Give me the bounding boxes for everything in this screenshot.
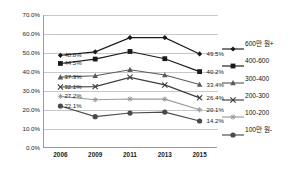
legend-item[interactable]: 100만 원- [222,122,290,139]
legend-item[interactable]: 300-400 [222,70,290,87]
x-axis-tick-label: 2006 [53,152,67,158]
legend-item-label: 600만 원+ [245,41,274,48]
income-trend-line-chart: 0.0%10.0%20.0%30.0%40.0%50.0%60.0%70.0% … [0,0,290,182]
legend-item-label: 100만 원- [245,127,272,134]
y-axis-tick-label: 0.0% [0,145,40,151]
start-value-label: 22.1% [64,103,81,109]
legend-marker-icon [222,74,244,84]
legend: 600만 원+400-600300-400200-300100-200100만 … [222,36,290,139]
data-point-marker [93,114,98,119]
data-point-marker [162,109,167,114]
y-axis-tick-label: 60.0% [0,31,40,37]
data-point-marker [58,61,63,66]
legend-marker-icon [222,57,244,67]
legend-marker-icon [222,40,244,50]
legend-item-label: 300-400 [245,76,269,83]
start-value-label: 27.2% [64,93,81,99]
data-point-marker [128,49,133,54]
data-point-marker [93,49,98,54]
legend-item[interactable]: 600만 원+ [222,36,290,53]
data-point-marker [127,35,132,40]
x-axis-tick-label: 2015 [192,152,206,158]
data-point-marker [197,69,202,74]
y-axis-tick-label: 70.0% [0,12,40,18]
x-axis-tick-label: 2011 [123,152,137,158]
legend-item-label: 100-200 [245,110,269,117]
legend-marker-icon [222,91,244,101]
x-axis-tick-label: 2013 [158,152,172,158]
y-axis-tick-label: 20.0% [0,107,40,113]
legend-item-label: 400-600 [245,58,269,65]
legend-item[interactable]: 100-200 [222,105,290,122]
data-point-marker [58,103,63,108]
x-axis-tick-label: 2009 [88,152,102,158]
start-value-label: 37.3% [64,74,81,80]
y-axis-tick-label: 10.0% [0,126,40,132]
data-point-marker [162,56,167,61]
data-point-marker [93,57,98,62]
legend-marker-icon [222,108,244,118]
start-value-label: 32.1% [64,84,81,90]
data-point-marker [127,110,132,115]
y-axis-tick-label: 40.0% [0,69,40,75]
legend-marker-icon [222,126,244,136]
y-axis: 0.0%10.0%20.0%30.0%40.0%50.0%60.0%70.0% [0,15,40,148]
legend-item-label: 200-300 [245,93,269,100]
data-point-marker [162,35,167,40]
data-point-marker [58,53,63,58]
data-point-marker [197,118,202,123]
y-axis-tick-label: 30.0% [0,88,40,94]
data-point-marker [197,51,202,56]
start-value-label: 44.5% [64,60,81,66]
data-point-marker [127,67,133,72]
legend-item[interactable]: 400-600 [222,53,290,70]
y-axis-tick-label: 50.0% [0,50,40,56]
start-value-label: 48.8% [64,52,81,58]
x-axis: 20062009201120132015 [43,152,217,164]
series-lines-layer [43,15,217,148]
legend-item[interactable]: 200-300 [222,88,290,105]
